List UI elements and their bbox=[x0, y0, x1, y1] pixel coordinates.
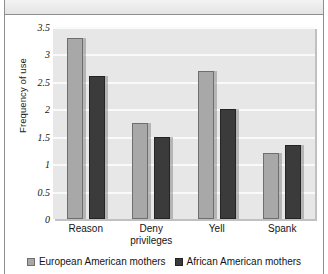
x-axis-tick-label-line: Spank bbox=[250, 223, 316, 235]
x-axis-tick-label-line: Yell bbox=[184, 223, 250, 235]
y-axis-tick-label: 2.5 bbox=[38, 76, 51, 87]
figure-frame-right-rule bbox=[323, 0, 324, 274]
bar bbox=[220, 109, 236, 219]
x-axis-tick-label-line: Deny bbox=[119, 223, 185, 235]
y-axis-tick-label: 1.5 bbox=[38, 131, 51, 142]
bar bbox=[198, 71, 214, 219]
bars-layer bbox=[53, 27, 315, 219]
figure-header-band-fill bbox=[4, 0, 324, 14]
figure-card: Frequency of use 3.532.521.510.50 Reason… bbox=[0, 0, 328, 274]
bar-chart: Frequency of use 3.532.521.510.50 Reason… bbox=[5, 16, 323, 274]
x-axis-tick-label-line: privileges bbox=[119, 235, 185, 247]
x-axis-tick-label: Yell bbox=[184, 223, 250, 235]
y-axis-tick-label: 3 bbox=[45, 49, 50, 60]
legend-label: European American mothers bbox=[39, 256, 166, 267]
bar bbox=[263, 153, 279, 219]
legend-swatch-icon bbox=[175, 258, 183, 266]
legend-label: African American mothers bbox=[187, 256, 302, 267]
y-axis-tick-label: 0 bbox=[45, 214, 50, 225]
legend-entry[interactable]: African American mothers bbox=[175, 256, 302, 267]
x-axis-tick-label: Reason bbox=[53, 223, 119, 235]
chart-legend: European American mothersAfrican America… bbox=[5, 256, 323, 267]
y-axis-tick-label: 1 bbox=[45, 159, 50, 170]
y-axis-tick-label: 3.5 bbox=[38, 22, 51, 33]
bar bbox=[154, 137, 170, 219]
bar bbox=[285, 145, 301, 219]
y-axis-tick-label: 0.5 bbox=[38, 186, 51, 197]
bar bbox=[67, 38, 83, 219]
y-axis-tick-labels: 3.532.521.510.50 bbox=[23, 21, 50, 217]
bar bbox=[89, 76, 105, 219]
x-axis-tick-label: Denyprivileges bbox=[119, 223, 185, 246]
legend-swatch-icon bbox=[27, 258, 35, 266]
y-axis-tick-label: 2 bbox=[45, 104, 50, 115]
x-axis-tick-labels: ReasonDenyprivilegesYellSpank bbox=[53, 223, 315, 257]
figure-header-band bbox=[4, 0, 324, 15]
plot-area bbox=[53, 27, 315, 219]
x-axis-tick-label: Spank bbox=[250, 223, 316, 235]
x-axis-tick-label-line: Reason bbox=[53, 223, 119, 235]
legend-entry[interactable]: European American mothers bbox=[27, 256, 166, 267]
bar bbox=[132, 123, 148, 219]
